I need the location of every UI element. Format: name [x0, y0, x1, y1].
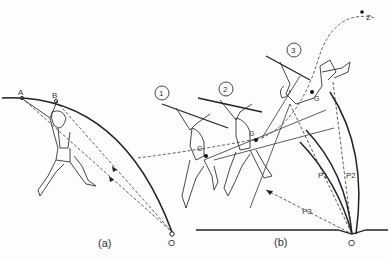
- svg-text:1: 1: [159, 89, 164, 98]
- svg-text:2: 2: [223, 85, 228, 94]
- ground-line: [196, 230, 388, 234]
- svg-text:3: 3: [291, 46, 296, 55]
- pole-vault-diagram: A B (a) Z 1 2: [0, 0, 391, 259]
- athlete-phase-3: [266, 56, 350, 104]
- label-g-1: G: [197, 145, 202, 152]
- pivot-o-a: [170, 232, 174, 236]
- label-o-b: O: [348, 238, 355, 248]
- cg-trajectory: [138, 16, 376, 158]
- athlete-phase-1: [162, 104, 228, 208]
- diagram-canvas: A B (a) Z 1 2: [0, 0, 391, 259]
- caption-a: (a): [98, 237, 111, 249]
- label-z: Z: [366, 13, 371, 22]
- phase-2-label: 2: [219, 82, 233, 96]
- label-a: A: [18, 88, 24, 97]
- phase-1-label: 1: [155, 86, 169, 100]
- label-p2: P2: [346, 171, 356, 180]
- label-g-2: G: [249, 130, 254, 137]
- label-g-3: G: [314, 95, 319, 102]
- label-p3: P3: [302, 207, 312, 216]
- athlete-a: [24, 100, 96, 196]
- panel-a: A B (a): [2, 88, 174, 249]
- label-o-a: O: [168, 238, 175, 248]
- label-b: B: [52, 91, 57, 100]
- panel-b: Z 1 2 3: [138, 10, 388, 248]
- caption-b: (b): [274, 236, 287, 248]
- label-p1: P1: [318, 171, 328, 180]
- phase-3-label: 3: [287, 43, 301, 57]
- pole-arc-a: [2, 98, 172, 232]
- apex-point: [360, 10, 364, 14]
